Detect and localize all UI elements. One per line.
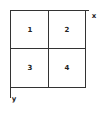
quadrant-4-label: 4 (63, 65, 71, 72)
top-border-x-axis (10, 10, 89, 11)
vertical-divider (48, 10, 49, 88)
quadrant-3-label: 3 (26, 65, 34, 72)
quadrant-2-label: 2 (63, 27, 71, 34)
y-axis-label: y (10, 96, 18, 103)
x-axis-label: x (90, 13, 98, 20)
horizontal-divider (10, 48, 86, 49)
left-border-y-axis (10, 10, 11, 98)
right-border (85, 10, 86, 88)
quadrant-1-label: 1 (26, 27, 34, 34)
